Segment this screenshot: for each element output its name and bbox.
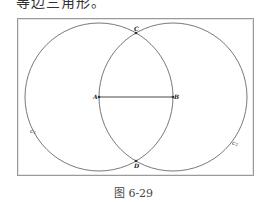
label-d: D [133, 162, 140, 169]
figure-caption: 图 6-29 [0, 184, 267, 200]
label-c2: c2 [232, 139, 238, 147]
point-c [135, 32, 138, 35]
geometry-diagram: A B C D c1 c2 [0, 0, 267, 204]
label-c: C [134, 25, 139, 32]
label-b: B [173, 93, 179, 100]
label-a: A [92, 93, 98, 100]
label-c1: c1 [30, 127, 36, 135]
point-a [98, 96, 101, 99]
